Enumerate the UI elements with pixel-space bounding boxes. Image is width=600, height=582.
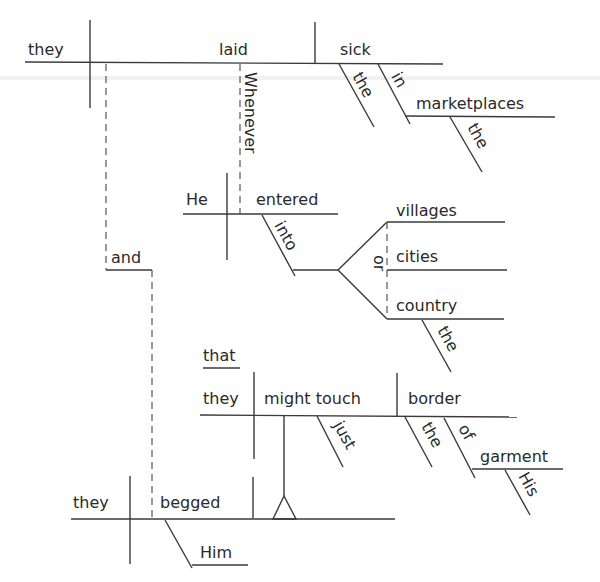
fork-lower xyxy=(338,270,387,319)
word-sick: sick xyxy=(340,40,372,59)
word-marketplaces: marketplaces xyxy=(416,94,524,113)
word-they-1: they xyxy=(28,40,64,59)
word-cities: cities xyxy=(396,247,438,266)
word-the-1: the xyxy=(349,69,378,101)
clause-3: they begged Him xyxy=(71,476,395,568)
word-of: of xyxy=(455,421,479,444)
indirect-object-slant xyxy=(165,520,192,568)
word-the-4: the xyxy=(418,419,447,451)
word-just: just xyxy=(329,417,360,453)
word-country: country xyxy=(396,296,457,315)
word-begged: begged xyxy=(160,493,220,512)
word-him: Him xyxy=(200,543,232,562)
word-or: or xyxy=(370,255,389,272)
word-laid: laid xyxy=(219,40,248,59)
word-that: that xyxy=(203,346,236,365)
sentence-diagram: they laid sick the in marketplaces the W… xyxy=(0,0,600,582)
word-they-3: they xyxy=(203,389,239,408)
clause-2: He entered into or villages cities count… xyxy=(183,173,507,372)
connector-and: and xyxy=(106,64,152,520)
word-border: border xyxy=(408,389,461,408)
baseline-noun-clause xyxy=(200,415,517,417)
prep-object-line-marketplaces xyxy=(405,116,555,117)
word-the-3: the xyxy=(434,323,463,355)
word-and: and xyxy=(111,248,141,267)
baseline-clause-1 xyxy=(25,62,443,64)
word-entered: entered xyxy=(256,190,318,209)
word-he: He xyxy=(186,190,208,209)
word-they-2: they xyxy=(73,493,109,512)
word-whenever: Whenever xyxy=(241,72,260,154)
noun-clause: that they might touch border just the of… xyxy=(200,346,563,515)
word-villages: villages xyxy=(396,201,457,220)
clause-1: they laid sick the in marketplaces the xyxy=(25,20,555,172)
word-garment: garment xyxy=(480,447,548,466)
word-into: into xyxy=(271,218,302,254)
word-might-touch: might touch xyxy=(264,389,361,408)
noun-clause-pedestal xyxy=(273,496,296,519)
